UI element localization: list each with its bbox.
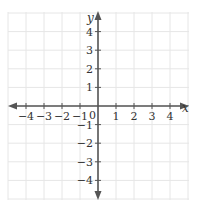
x-tick-label: 1 <box>113 110 120 123</box>
x-tick-label: −4 <box>18 110 34 123</box>
origin-label: 0 <box>89 109 96 122</box>
y-tick-label: −4 <box>77 174 93 187</box>
y-axis-top-arrow-icon <box>95 11 102 20</box>
y-tick-label: −2 <box>77 137 93 150</box>
coordinate-plane: −4−3−2−112344321−1−2−3−4 x y 0 <box>0 0 197 204</box>
x-tick-label: 2 <box>131 110 138 123</box>
x-axis-label: x <box>182 101 189 115</box>
y-tick-label: 4 <box>86 26 93 39</box>
y-tick-label: 2 <box>86 63 93 76</box>
x-tick-label: −2 <box>54 110 70 123</box>
x-axis-left-arrow-icon <box>8 103 17 110</box>
x-tick-label: −3 <box>36 110 52 123</box>
axes <box>8 11 189 200</box>
y-tick-label: 3 <box>86 44 93 57</box>
y-tick-label: −3 <box>77 156 93 169</box>
x-tick-label: 4 <box>167 110 174 123</box>
y-axis-label: y <box>86 11 94 25</box>
x-tick-label: 3 <box>149 110 156 123</box>
y-tick-label: 1 <box>86 81 93 94</box>
